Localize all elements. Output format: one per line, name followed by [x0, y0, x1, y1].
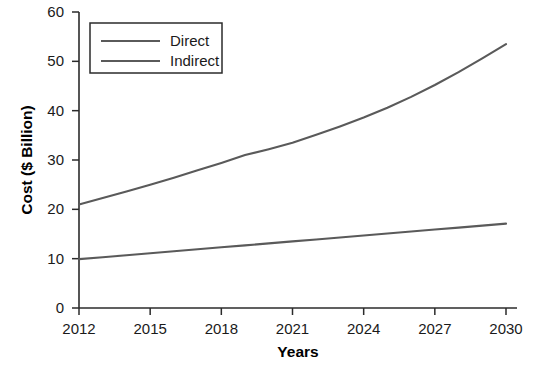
x-tick-label: 2018: [205, 320, 238, 337]
y-tick-label: 60: [47, 3, 64, 20]
x-tick-label: 2012: [62, 320, 95, 337]
y-tick-marks: [72, 12, 79, 308]
y-tick-label: 0: [56, 299, 64, 316]
y-tick-label: 20: [47, 200, 64, 217]
line-chart: 0102030405060 20122015201820212024202720…: [0, 0, 534, 365]
x-tick-marks: [79, 308, 506, 315]
y-axis-title: Cost ($ Billion): [18, 105, 35, 214]
x-tick-label: 2015: [133, 320, 166, 337]
y-tick-label: 40: [47, 102, 64, 119]
y-axis: 0102030405060: [47, 3, 79, 316]
x-tick-label: 2027: [418, 320, 451, 337]
y-tick-label: 10: [47, 250, 64, 267]
x-tick-label: 2030: [489, 320, 522, 337]
y-tick-label: 50: [47, 52, 64, 69]
x-tick-label: 2021: [276, 320, 309, 337]
series-line-indirect: [79, 224, 506, 260]
x-tick-labels: 2012201520182021202420272030: [62, 320, 522, 337]
chart-legend: DirectIndirect: [90, 23, 222, 73]
y-tick-labels: 0102030405060: [47, 3, 64, 316]
legend-label-direct: Direct: [170, 32, 210, 49]
data-series-group: [79, 44, 506, 259]
chart-canvas: 0102030405060 20122015201820212024202720…: [0, 0, 534, 365]
x-axis-title: Years: [277, 343, 318, 360]
legend-label-indirect: Indirect: [170, 52, 220, 69]
x-axis: 2012201520182021202420272030: [62, 308, 522, 337]
y-tick-label: 30: [47, 151, 64, 168]
x-tick-label: 2024: [347, 320, 380, 337]
